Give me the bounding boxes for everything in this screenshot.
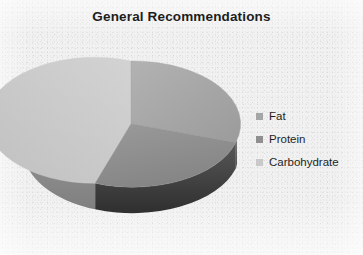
legend-item-carbohydrate[interactable]: Carbohydrate xyxy=(256,151,339,174)
legend-item-protein[interactable]: Protein xyxy=(256,128,339,151)
legend-square-icon xyxy=(256,113,263,120)
legend-item-label: Carbohydrate xyxy=(269,157,339,169)
legend-square-icon xyxy=(256,159,263,166)
chart-legend: Fat Protein Carbohydrate xyxy=(256,105,339,174)
page-title: General Recommendations xyxy=(0,9,363,24)
legend-item-label: Protein xyxy=(269,134,305,146)
legend-item-label: Fat xyxy=(269,111,286,123)
legend-item-fat[interactable]: Fat xyxy=(256,105,339,128)
slide-canvas: General Recommendations xyxy=(0,0,363,255)
legend-square-icon xyxy=(256,136,263,143)
